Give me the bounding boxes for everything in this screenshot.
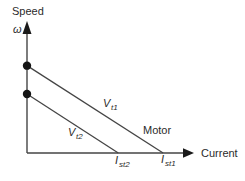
x-axis-title: Current [201,147,238,159]
vt1-label-subscript: t1 [111,103,118,112]
omega-symbol: ω [13,23,22,35]
ist1-label-subscript: st1 [165,159,176,168]
no-load-speed-dot-vt2 [23,90,31,98]
ist2-label-main: I [115,154,118,166]
x-axis-arrowhead-icon [183,148,194,158]
ist2-label-subscript: st2 [119,160,130,169]
motor-region-label: Motor [143,124,171,136]
y-axis-arrowhead-icon [23,21,32,34]
speed-current-characteristic-figure: Speed ω Current Motor V t1 V t2 I st2 I … [0,0,245,181]
vt1-characteristic-line [27,66,163,153]
speed-current-plot: Speed ω Current Motor V t1 V t2 I st2 I … [0,0,245,181]
no-load-speed-dot-vt1 [23,61,31,69]
ist1-label-main: I [161,153,164,165]
y-axis-title: Speed [12,5,44,17]
vt2-label-subscript: t2 [76,132,83,141]
